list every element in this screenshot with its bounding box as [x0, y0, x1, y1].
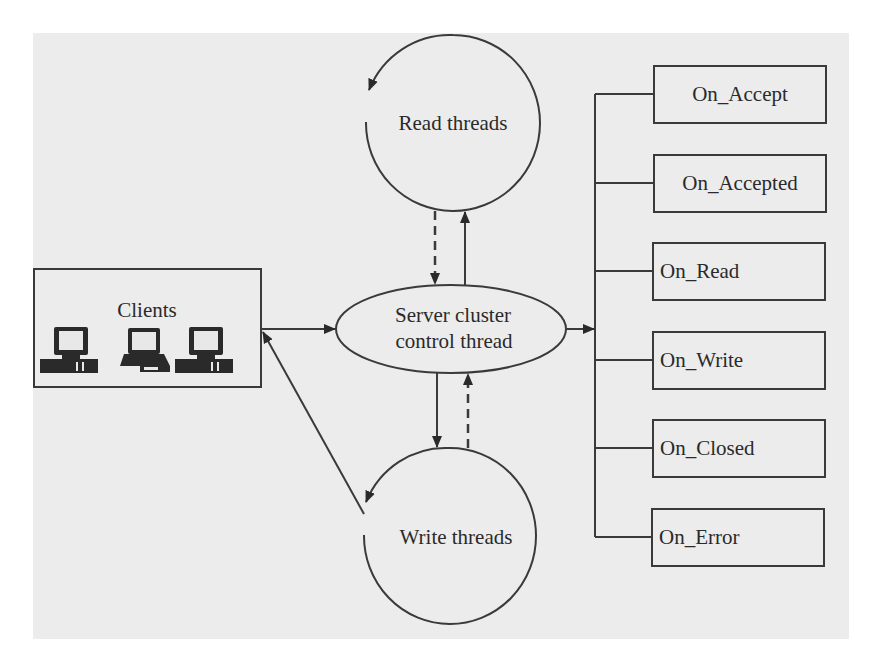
handler-connectors [595, 94, 653, 537]
handler-label: On_Accepted [682, 171, 797, 196]
write-threads-label: Write threads [400, 525, 513, 549]
handler-label: On_Closed [660, 436, 755, 461]
server-label-line2: control thread [395, 329, 512, 353]
handler-label: On_Accept [692, 82, 788, 107]
clients-box [33, 268, 262, 388]
read-threads-label: Read threads [398, 111, 507, 135]
clients-label: Clients [117, 298, 177, 322]
handler-label: On_Error [659, 525, 739, 550]
handler-on-write: On_Write [652, 331, 826, 390]
handler-on-read: On_Read [652, 242, 826, 301]
server-label-line1: Server cluster [395, 303, 511, 327]
handler-on-closed: On_Closed [652, 419, 826, 478]
handler-on-accept: On_Accept [653, 65, 827, 124]
handler-on-error: On_Error [651, 508, 825, 567]
write-to-clients-arrow [263, 332, 364, 514]
handler-label: On_Read [660, 259, 739, 284]
handler-on-accepted: On_Accepted [653, 154, 827, 213]
handler-label: On_Write [660, 348, 743, 373]
